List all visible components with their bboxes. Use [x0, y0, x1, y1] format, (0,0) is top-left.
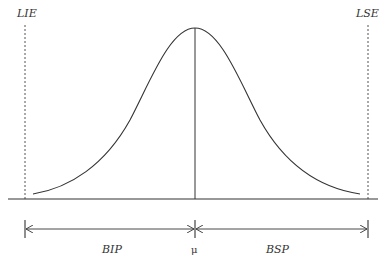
normal-distribution-diagram: LIE LSE BIP μ BSP [0, 0, 383, 262]
lower-span-label: BIP [101, 243, 122, 256]
bell-curve [33, 28, 360, 194]
mean-label: μ [191, 244, 198, 255]
upper-span-label: BSP [265, 243, 290, 256]
lower-spec-limit-label: LIE [16, 7, 37, 20]
upper-spec-limit-label: LSE [355, 7, 379, 20]
